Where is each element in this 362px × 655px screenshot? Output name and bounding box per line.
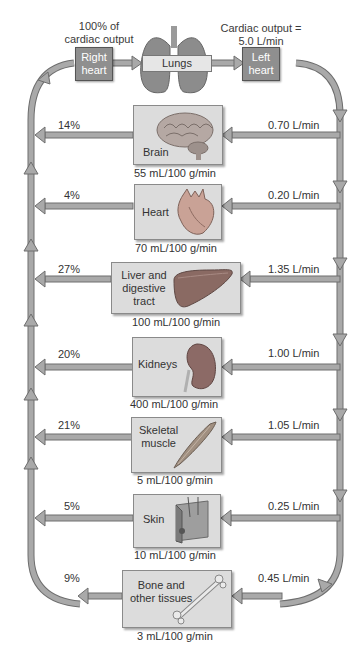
kidneys-label: Kidneys [138,358,177,371]
left-heart-label: heart [248,64,273,77]
muscle-label-line: Skeletal [139,424,178,437]
heart-rate: 70 mL/100 g/min [135,242,217,254]
kidneys-flow: 1.00 L/min [268,347,319,359]
brain-box: Brain [133,105,223,165]
kidneys-box: Kidneys [132,337,222,397]
lungs-label: Lungs [162,57,192,69]
brain-rate: 55 mL/100 g/min [134,167,216,179]
left-heart-box: Left heart [242,47,280,81]
brain-percent: 14% [58,119,80,131]
caption-line: 100% of [64,20,134,33]
heart-percent: 4% [64,189,80,201]
skin-box: Skin [133,494,221,548]
lungs-box: Lungs [142,55,212,72]
kidneys-rate: 400 mL/100 g/min [130,398,218,410]
skin-rate: 10 mL/100 g/min [134,549,216,561]
muscle-label-line: muscle [139,437,178,450]
skin-icon [168,497,216,545]
liver-label: Liver and digestive tract [118,269,170,308]
caption-line: Cardiac output = [216,22,306,35]
liver-label-line: Liver and [118,269,170,282]
muscle-flow: 1.05 L/min [268,419,319,431]
bone-label: Bone and other tissues [130,579,192,605]
muscle-label: Skeletal muscle [139,424,178,450]
kidney-icon [179,342,217,394]
kidneys-percent: 20% [58,348,80,360]
bone-rate: 3 mL/100 g/min [137,630,213,642]
heart-icon [173,187,219,237]
liver-and-digestive-tract-box: Liver and digestive tract [111,262,241,314]
cardiac-output-total-caption: Cardiac output = 5.0 L/min [216,22,306,48]
skin-flow: 0.25 L/min [268,500,319,512]
bone-label-line: Bone and [130,579,192,592]
liver-percent: 27% [58,263,80,275]
bone-percent: 9% [64,572,80,584]
liver-icon [170,266,236,310]
brain-label: Brain [143,146,169,159]
left-heart-label: Left [252,51,270,64]
skin-label: Skin [143,513,164,526]
bone-and-other-tissues-box: Bone and other tissues [122,570,232,628]
right-heart-label: Right [81,51,107,64]
liver-label-line: digestive [118,282,170,295]
skin-percent: 5% [64,500,80,512]
heart-label: Heart [142,206,169,219]
liver-flow: 1.35 L/min [268,263,319,275]
liver-rate: 100 mL/100 g/min [132,316,220,328]
bone-label-line: other tissues [130,592,192,605]
skeletal-muscle-box: Skeletal muscle [131,417,222,473]
heart-box: Heart [134,184,222,240]
brain-flow: 0.70 L/min [268,119,319,131]
liver-label-line: tract [118,295,170,308]
muscle-percent: 21% [58,419,80,431]
cardiac-output-percent-caption: 100% of cardiac output [64,20,134,46]
right-heart-label: heart [81,64,106,77]
muscle-rate: 5 mL/100 g/min [137,474,213,486]
right-heart-box: Right heart [75,47,113,81]
bone-flow: 0.45 L/min [258,572,309,584]
caption-line: cardiac output [64,33,134,46]
heart-flow: 0.20 L/min [268,189,319,201]
